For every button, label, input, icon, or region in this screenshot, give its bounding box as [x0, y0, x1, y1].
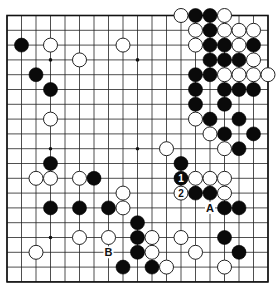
white-stone [116, 201, 130, 215]
white-stone [218, 142, 232, 156]
white-stone [203, 127, 217, 141]
white-stone [29, 171, 43, 185]
white-stone [218, 23, 232, 37]
black-stone [44, 83, 58, 97]
white-stone [218, 171, 232, 185]
go-board-diagram: 12AB [0, 0, 276, 296]
black-stone [131, 245, 145, 259]
black-stone [232, 201, 246, 215]
white-stone [247, 53, 261, 67]
white-stone [73, 171, 87, 185]
black-stone [174, 157, 188, 171]
move-number: 1 [178, 173, 184, 184]
black-stone [247, 127, 261, 141]
black-stone [247, 38, 261, 52]
black-stone [44, 201, 58, 215]
white-stone [218, 9, 232, 23]
white-stone [160, 260, 174, 274]
stones [15, 9, 276, 275]
black-stone [189, 186, 203, 200]
white-stone [73, 53, 87, 67]
black-stone [203, 38, 217, 52]
black-stone [203, 186, 217, 200]
white-stone [174, 9, 188, 23]
black-stone [29, 68, 43, 82]
black-stone [247, 83, 261, 97]
white-stone [160, 142, 174, 156]
black-stone [189, 83, 203, 97]
black-stone [203, 112, 217, 126]
black-stone [218, 97, 232, 111]
white-stone [247, 68, 261, 82]
black-stone [232, 142, 246, 156]
black-stone [116, 260, 130, 274]
black-stone [102, 201, 116, 215]
black-stone [203, 53, 217, 67]
black-stone [189, 97, 203, 111]
point-label-b: B [105, 246, 113, 258]
black-stone [131, 216, 145, 230]
white-stone [116, 186, 130, 200]
black-stone [232, 112, 246, 126]
white-stone [145, 231, 159, 245]
white-stone [232, 68, 246, 82]
black-stone [189, 68, 203, 82]
white-stone [73, 231, 87, 245]
white-stone [232, 23, 246, 37]
white-stone [232, 38, 246, 52]
white-stone [218, 186, 232, 200]
go-board: 12AB [0, 0, 276, 296]
white-stone [44, 38, 58, 52]
white-stone [116, 38, 130, 52]
star-point [136, 58, 140, 62]
white-stone [218, 260, 232, 274]
black-stone [145, 260, 159, 274]
black-stone [218, 201, 232, 215]
white-stone [261, 68, 275, 82]
black-stone [131, 231, 145, 245]
black-stone [232, 53, 246, 67]
black-stone [232, 245, 246, 259]
black-stone [203, 23, 217, 37]
white-stone [247, 23, 261, 37]
white-stone [189, 112, 203, 126]
white-stone [189, 38, 203, 52]
black-stone [203, 68, 217, 82]
black-stone [44, 157, 58, 171]
black-stone [218, 127, 232, 141]
black-stone [218, 53, 232, 67]
black-stone [218, 231, 232, 245]
white-stone [102, 231, 116, 245]
white-stone [218, 68, 232, 82]
star-point [49, 236, 53, 240]
black-stone [73, 201, 87, 215]
white-stone [44, 171, 58, 185]
star-point [49, 58, 53, 62]
move-number: 2 [178, 188, 184, 199]
white-stone [44, 112, 58, 126]
white-stone [145, 245, 159, 259]
black-stone [203, 9, 217, 23]
white-stone [189, 245, 203, 259]
white-stone [189, 23, 203, 37]
black-stone [15, 38, 29, 52]
white-stone [203, 171, 217, 185]
white-stone [189, 171, 203, 185]
black-stone [189, 9, 203, 23]
star-point [136, 147, 140, 151]
black-stone [232, 83, 246, 97]
white-stone [29, 245, 43, 259]
star-point [49, 147, 53, 151]
point-label-a: A [206, 202, 214, 214]
black-stone [218, 38, 232, 52]
white-stone [174, 231, 188, 245]
black-stone [218, 83, 232, 97]
black-stone [87, 171, 101, 185]
